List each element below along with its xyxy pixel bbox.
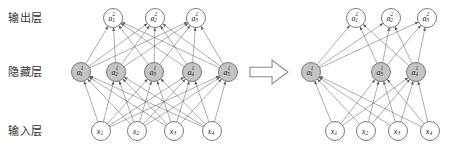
- left-edge-hidden-output: [201, 26, 223, 64]
- right-output-node-2: a22: [382, 9, 401, 28]
- dropout-figure: a21a22a23a11a12a13a14a15x1x2x3x4 a21a22a…: [0, 0, 458, 158]
- node-label: a13: [149, 66, 156, 78]
- left-hidden-node-5: a15: [219, 63, 238, 82]
- right-edge-input-hidden: [401, 81, 413, 122]
- edge-arrowhead: [157, 81, 160, 85]
- left-edge-input-hidden: [180, 79, 221, 124]
- edge-arrowhead: [149, 81, 152, 85]
- node-label: a23: [422, 12, 429, 24]
- edge-arrowhead: [146, 26, 149, 30]
- left-edge-hidden-output: [122, 26, 150, 65]
- edge-arrowhead: [376, 81, 379, 85]
- left-edge-hidden-output: [122, 22, 220, 68]
- left-hidden-node-4: a14: [183, 63, 202, 82]
- node-label: a11: [77, 66, 84, 78]
- edge-arrowhead: [383, 81, 386, 85]
- right-edge-input-hidden: [343, 78, 409, 126]
- edge-arrowhead: [84, 81, 87, 85]
- layer-label-input: 输入层: [8, 124, 43, 138]
- edge-arrowhead: [160, 26, 163, 30]
- left-hidden-node-2: a12: [107, 63, 126, 82]
- node-label: a15: [223, 66, 230, 78]
- edge-arrowhead: [163, 24, 167, 27]
- right-edge-input-hidden: [368, 81, 378, 122]
- edge-arrowhead: [379, 23, 383, 26]
- left-edge-hidden-output: [114, 27, 116, 62]
- edge-arrowhead: [411, 81, 414, 85]
- right-edge-hidden-output: [360, 27, 377, 64]
- right-network-nodes: a21a22a23a11a13a14x1x2x3x4: [302, 9, 440, 141]
- left-edge-hidden-output: [121, 23, 184, 66]
- left-output-node-3: a23: [187, 9, 206, 28]
- right-edge-hidden-output: [317, 25, 350, 64]
- layer-label-hidden: 隐藏层: [8, 66, 43, 79]
- right-input-node-1: x1: [326, 122, 345, 141]
- left-edge-input-hidden: [214, 81, 225, 122]
- right-input-node-2: x2: [357, 122, 376, 141]
- edge-arrowhead: [119, 26, 122, 30]
- edge-arrowhead: [153, 28, 156, 31]
- edge-arrowhead: [111, 81, 114, 85]
- node-label: a14: [411, 66, 418, 78]
- left-edge-hidden-output: [90, 22, 188, 68]
- left-edge-hidden-output: [163, 24, 221, 67]
- left-edge-hidden-output: [154, 28, 155, 63]
- node-label: a14: [187, 66, 194, 78]
- layer-label-output: 输出层: [8, 11, 43, 25]
- left-edge-input-hidden: [145, 77, 220, 126]
- right-output-node-3: a23: [418, 9, 437, 28]
- left-hidden-node-3: a13: [145, 63, 164, 82]
- left-edge-input-hidden: [84, 81, 98, 122]
- edge-arrowhead: [387, 27, 390, 31]
- left-edge-hidden-output: [193, 27, 196, 62]
- node-label: a13: [376, 66, 383, 78]
- right-arrow-icon: [250, 60, 288, 84]
- right-edge-hidden-output: [395, 27, 412, 64]
- node-label: a11: [307, 66, 314, 78]
- edge-arrowhead: [195, 81, 198, 85]
- right-edge-hidden-output: [319, 23, 383, 66]
- left-input-node-1: x1: [92, 122, 111, 141]
- right-edge-input-hidden: [418, 81, 428, 122]
- left-edge-input-hidden: [143, 79, 185, 124]
- node-label: a22: [150, 12, 157, 24]
- edge-arrowhead: [194, 27, 197, 31]
- right-hidden-node-3: a14: [407, 63, 426, 82]
- node-label: a21: [108, 12, 115, 24]
- edge-arrowhead: [119, 81, 122, 85]
- left-input-node-4: x4: [203, 122, 222, 141]
- left-output-node-1: a21: [104, 9, 123, 28]
- left-edge-hidden-output: [119, 26, 149, 65]
- right-input-node-4: x4: [421, 122, 440, 141]
- edge-arrowhead: [112, 27, 115, 30]
- left-edge-input-hidden: [88, 79, 131, 124]
- left-edge-input-hidden: [124, 77, 204, 126]
- right-hidden-node-2: a13: [372, 63, 391, 82]
- left-edge-input-hidden: [90, 76, 204, 127]
- left-input-node-2: x2: [128, 122, 147, 141]
- left-edge-input-hidden: [119, 81, 134, 122]
- edge-arrowhead: [223, 81, 226, 85]
- right-edge-hidden-output: [418, 27, 425, 62]
- edge-arrowhead: [144, 24, 148, 27]
- right-edge-input-hidden: [387, 79, 424, 123]
- edge-arrowhead: [187, 81, 190, 85]
- right-input-node-3: x3: [389, 122, 408, 141]
- edge-arrowhead: [105, 26, 108, 30]
- left-output-node-2: a22: [146, 9, 165, 28]
- edge-arrowhead: [372, 79, 375, 83]
- right-edge-hidden-output: [363, 24, 409, 65]
- right-output-node-1: a21: [347, 9, 366, 28]
- right-hidden-node-1: a11: [302, 63, 321, 82]
- node-label: a12: [111, 66, 118, 78]
- node-label: a21: [351, 12, 358, 24]
- edge-arrowhead: [423, 27, 426, 31]
- network-diagram-canvas: a21a22a23a11a12a13a14a15x1x2x3x4 a21a22a…: [0, 0, 458, 158]
- node-label: a22: [386, 12, 393, 24]
- left-hidden-node-1: a11: [72, 63, 91, 82]
- edge-arrowhead: [201, 26, 204, 30]
- right-edge-hidden-output: [387, 25, 421, 65]
- left-edge-input-hidden: [123, 79, 168, 124]
- node-label: a23: [191, 12, 198, 24]
- edge-arrowhead: [418, 81, 421, 85]
